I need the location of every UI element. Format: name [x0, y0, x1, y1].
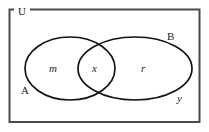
region-label-intersection: x	[91, 62, 97, 74]
set-b-label: B	[167, 30, 174, 42]
set-a-label: A	[21, 84, 29, 96]
universe-label: U	[18, 5, 26, 17]
venn-diagram-canvas: U A B m x r y	[0, 0, 209, 132]
universe-rectangle	[10, 10, 200, 123]
region-label-b-only: r	[141, 62, 146, 74]
venn-diagram: U A B m x r y	[0, 0, 209, 132]
set-a-ellipse	[25, 37, 115, 100]
region-label-outside: y	[176, 92, 182, 104]
region-label-a-only: m	[49, 62, 57, 74]
